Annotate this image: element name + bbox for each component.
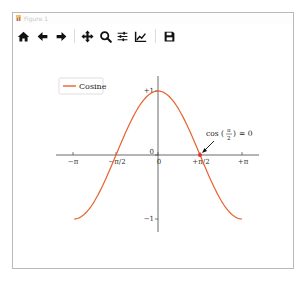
- annotation-close-paren: ): [233, 129, 236, 138]
- y-ticks: [155, 91, 158, 219]
- x-ticks: [73, 152, 242, 155]
- annotation-point-marker: [198, 153, 202, 157]
- ytick-label: −1: [144, 215, 154, 223]
- ytick-label: +1: [144, 87, 154, 95]
- figure-window: Figure 1: [12, 12, 294, 269]
- annotation-open-paren: (: [221, 129, 224, 138]
- ytick-label: 0: [150, 148, 154, 156]
- annotation-fraction-numerator: π: [227, 127, 231, 133]
- cosine-plot: −π −π/2 0 +π/2 +π +1 0 −1 Cosine cos ( π: [1, 1, 305, 281]
- xtick-label: +π: [238, 158, 249, 166]
- legend: Cosine: [59, 78, 107, 94]
- annotation-suffix: = 0: [239, 129, 253, 138]
- xtick-label: −π: [68, 158, 79, 166]
- legend-label: Cosine: [79, 82, 107, 91]
- annotation: cos ( π 2 ) = 0: [198, 127, 253, 157]
- annotation-fraction-denominator: 2: [227, 135, 231, 141]
- xtick-label: +π/2: [192, 158, 209, 166]
- xtick-label: 0: [157, 158, 161, 166]
- annotation-prefix: cos: [206, 129, 219, 138]
- xtick-label: −π/2: [108, 158, 125, 166]
- figure-canvas[interactable]: −π −π/2 0 +π/2 +π +1 0 −1 Cosine cos ( π: [13, 49, 293, 268]
